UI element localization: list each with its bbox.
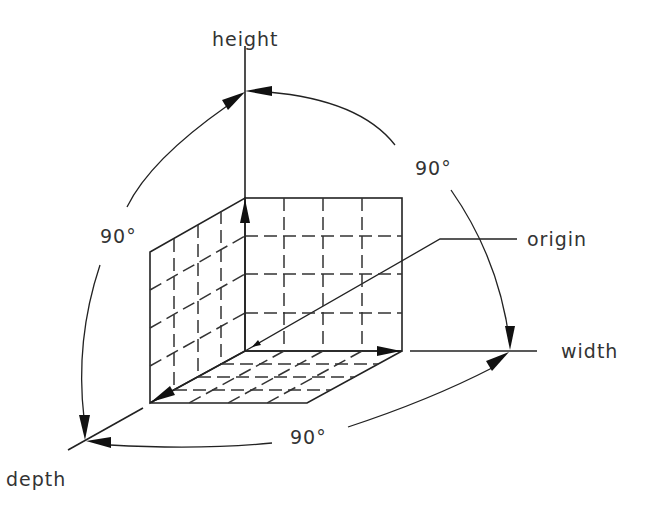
arc-arrow-icon: [245, 86, 272, 96]
back-wall-grid: [245, 198, 402, 351]
labels: height width depth origin 90° 90° 90°: [6, 28, 618, 490]
arc-height-width: [268, 92, 395, 145]
arc-depth-width: [110, 443, 272, 447]
angle-label-top-right: 90°: [415, 157, 452, 179]
arc-arrow-icon: [486, 352, 509, 371]
floor-grid: [150, 351, 402, 403]
width-arrow-icon: [377, 346, 401, 356]
angle-label-bottom: 90°: [290, 426, 327, 448]
arc-arrow-icon: [79, 415, 90, 440]
angle-arcs: [79, 86, 515, 448]
axes: [68, 46, 537, 450]
height-label: height: [212, 28, 279, 50]
origin-label: origin: [527, 228, 587, 250]
arc-height-depth: [127, 106, 227, 207]
height-arrow-icon: [240, 199, 250, 223]
coordinate-diagram: height width depth origin 90° 90° 90°: [0, 0, 648, 508]
origin-arrow-icon: [252, 340, 261, 347]
arc-arrow-icon: [505, 326, 515, 350]
width-label: width: [561, 340, 618, 362]
side-wall-grid: [150, 198, 245, 403]
angle-label-left: 90°: [100, 225, 137, 247]
origin-leader-line: [245, 239, 517, 351]
depth-label: depth: [6, 468, 66, 490]
depth-arrow-icon: [151, 386, 175, 402]
